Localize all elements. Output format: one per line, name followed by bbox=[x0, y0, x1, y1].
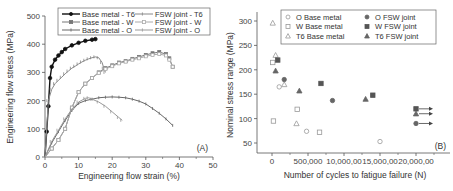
series-o-fsw-joint bbox=[282, 77, 433, 125]
x-tick-label: 10 bbox=[74, 161, 83, 170]
panel-a-y-axis-label: Engineering flow stress (MPa) bbox=[5, 30, 15, 144]
panel-a-y-ticks: 0100200300400500 bbox=[27, 12, 45, 162]
x-tick-label: 40 bbox=[175, 161, 184, 170]
x-tick-label: 20 bbox=[108, 161, 117, 170]
marker-square-icon bbox=[91, 77, 94, 80]
panel-a-chart: 0100200300400500 01020304050 Engineering… bbox=[5, 8, 218, 181]
panel-a-label: (A) bbox=[197, 143, 209, 153]
panel-b-y-axis-label: Nominal stress range (MPa) bbox=[225, 32, 235, 138]
marker-square-icon bbox=[117, 62, 120, 65]
marker-square-icon bbox=[171, 65, 174, 68]
x-tick-label: 0 bbox=[43, 161, 48, 170]
x-tick-label: 500,000 bbox=[294, 157, 323, 166]
marker-square-icon bbox=[131, 58, 134, 61]
panel-b-chart: 50100150200250300 0500,00010,000,0015,00… bbox=[225, 10, 450, 180]
figure: 0100200300400500 01020304050 Engineering… bbox=[0, 0, 453, 191]
y-tick-label: 400 bbox=[27, 40, 41, 49]
marker-circle-icon bbox=[53, 58, 57, 62]
marker-circle-icon bbox=[84, 39, 88, 43]
marker-square-icon bbox=[57, 139, 60, 142]
marker-square-icon bbox=[365, 25, 369, 29]
series-fsw-joint-o bbox=[45, 96, 122, 157]
marker-triangle-icon bbox=[273, 53, 278, 58]
marker-circle-icon bbox=[57, 54, 61, 58]
marker-circle-icon bbox=[94, 37, 98, 41]
y-tick-label: 200 bbox=[239, 66, 253, 75]
marker-circle-icon bbox=[77, 41, 81, 45]
marker-circle-icon bbox=[60, 50, 64, 54]
marker-square-icon bbox=[124, 60, 127, 63]
x-tick-label: 0 bbox=[270, 157, 275, 166]
legend-label: T6 FSW joint bbox=[375, 32, 419, 41]
legend-label: FSW joint - O bbox=[155, 26, 200, 35]
x-tick-label: 10,000,00 bbox=[326, 157, 362, 166]
x-tick-label: 15,000,00 bbox=[362, 157, 398, 166]
marker-triangle-icon bbox=[282, 82, 287, 87]
marker-square-icon bbox=[104, 68, 107, 71]
y-tick-label: 300 bbox=[27, 68, 41, 77]
marker-triangle-icon bbox=[363, 96, 368, 101]
marker-circle-icon bbox=[50, 65, 54, 69]
marker-circle-icon bbox=[277, 85, 281, 89]
marker-square-icon bbox=[371, 93, 375, 97]
arrowhead-icon bbox=[429, 107, 433, 111]
marker-circle-icon bbox=[48, 76, 52, 80]
panel-a-legend: Base metal - T6Base metal - WBase metal … bbox=[58, 8, 210, 35]
y-tick-label: 100 bbox=[27, 125, 41, 134]
x-tick-label: 50 bbox=[209, 161, 218, 170]
panel-b-legend: O Base metalW Base metalT6 Base metalO F… bbox=[281, 10, 436, 44]
series-fsw-joint-w bbox=[45, 53, 174, 157]
marker-square-icon bbox=[164, 54, 167, 57]
marker-square-icon bbox=[111, 65, 114, 68]
marker-square-icon bbox=[97, 71, 100, 74]
marker-circle-icon bbox=[70, 44, 74, 48]
panel-b-x-axis-label: Number of cycles to fatigue failure (N) bbox=[284, 170, 427, 180]
legend-label: Base metal - O bbox=[82, 26, 132, 35]
marker-circle-icon bbox=[282, 77, 286, 81]
panel-a-x-ticks: 01020304050 bbox=[43, 157, 218, 170]
marker-square-icon bbox=[295, 107, 299, 111]
y-tick-label: 100 bbox=[239, 115, 253, 124]
series-base-metal-w bbox=[45, 51, 174, 157]
marker-circle-icon bbox=[414, 121, 418, 125]
marker-triangle-icon bbox=[294, 121, 299, 126]
marker-square-icon bbox=[319, 81, 323, 85]
legend-label: W FSW joint bbox=[375, 22, 418, 31]
marker-circle-icon bbox=[304, 129, 308, 133]
marker-square-icon bbox=[168, 58, 171, 61]
legend-label: W Base metal bbox=[296, 22, 343, 31]
x-tick-label: 30 bbox=[141, 161, 150, 170]
marker-square-icon bbox=[286, 25, 290, 29]
marker-square-icon bbox=[142, 20, 145, 23]
marker-circle-icon bbox=[330, 98, 334, 102]
marker-square-icon bbox=[144, 55, 147, 58]
marker-circle-icon bbox=[365, 15, 369, 19]
marker-square-icon bbox=[84, 82, 87, 85]
marker-circle-icon bbox=[378, 139, 382, 143]
y-tick-label: 500 bbox=[27, 12, 41, 21]
marker-triangle-icon bbox=[273, 68, 278, 73]
panel-b-x-ticks: 0500,00010,000,0015,000,0020,000,00 bbox=[270, 153, 435, 166]
panel-b-y-ticks: 50100150200250300 bbox=[239, 17, 257, 148]
y-tick-label: 300 bbox=[239, 17, 253, 26]
y-tick-label: 0 bbox=[36, 153, 41, 162]
marker-triangle-icon bbox=[413, 111, 418, 116]
marker-square-icon bbox=[50, 147, 53, 150]
marker-square-icon bbox=[276, 58, 280, 62]
series-w-fsw-joint bbox=[276, 58, 433, 111]
legend-label: T6 Base metal bbox=[296, 32, 345, 41]
panel-b-label: (B) bbox=[435, 141, 447, 151]
y-tick-label: 250 bbox=[239, 41, 253, 50]
marker-triangle-icon bbox=[297, 88, 302, 93]
arrowhead-icon bbox=[429, 112, 433, 116]
marker-circle-icon bbox=[286, 15, 290, 19]
marker-square-icon bbox=[271, 119, 275, 123]
marker-square-icon bbox=[151, 53, 154, 56]
y-tick-label: 150 bbox=[239, 90, 253, 99]
marker-square-icon bbox=[69, 20, 72, 23]
panel-a-series bbox=[45, 37, 174, 157]
marker-circle-icon bbox=[69, 12, 72, 15]
marker-circle-icon bbox=[63, 47, 67, 51]
y-tick-label: 50 bbox=[243, 139, 252, 148]
marker-square-icon bbox=[77, 91, 80, 94]
